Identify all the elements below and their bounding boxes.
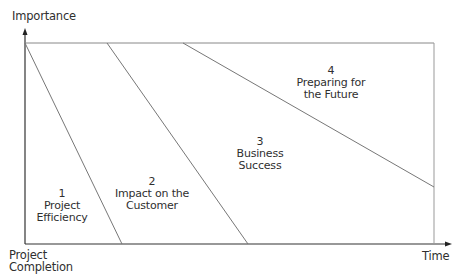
region-3-label: 3 Business Success	[225, 136, 295, 172]
region-1-line2: Efficiency	[32, 212, 92, 224]
region-1-label: 1 Project Efficiency	[32, 188, 92, 224]
region-3-line2: Success	[225, 160, 295, 172]
origin-label-line2: Completion	[9, 261, 73, 273]
x-axis-arrow-icon	[445, 242, 452, 247]
region-4-line2: the Future	[286, 89, 376, 101]
region-2-label: 2 Impact on the Customer	[112, 176, 192, 212]
origin-label: Project Completion	[9, 249, 73, 273]
x-axis-label: Time	[422, 250, 449, 262]
region-4-label: 4 Preparing for the Future	[286, 65, 376, 101]
y-axis-arrow-icon	[23, 28, 28, 35]
y-axis-label: Importance	[12, 10, 76, 22]
region-2-line2: Customer	[112, 200, 192, 212]
